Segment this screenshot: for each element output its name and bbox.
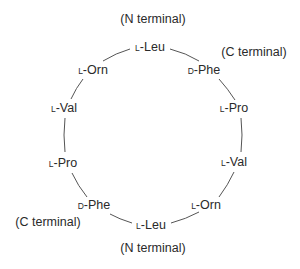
bond-phe-pro-right <box>219 79 235 100</box>
bond-leu-phe-top <box>170 49 199 61</box>
residue-l-orn-left: L-Orn <box>78 63 108 78</box>
n-terminal-label-top: (N terminal) <box>120 12 185 26</box>
residue-l-val-right: L-Val <box>221 155 247 170</box>
residue-l-pro-right: L-Pro <box>220 101 248 116</box>
residue-name: -Phe <box>194 63 220 77</box>
bond-val-orn-right <box>219 172 234 197</box>
residue-l-pro-left: L-Pro <box>49 156 77 171</box>
residue-name: -Orn <box>196 198 221 212</box>
residue-name: -Pro <box>54 156 78 170</box>
c-terminal-label-bottom: (C terminal) <box>15 215 80 229</box>
bond-orn-leu-bottom <box>171 212 199 223</box>
residue-name: -Orn <box>83 63 108 77</box>
residue-l-leu-top: L-Leu <box>135 40 165 55</box>
c-terminal-label-top: (C terminal) <box>221 45 286 59</box>
residue-name: -Pro <box>225 101 249 115</box>
bond-leu-phe-bottom <box>110 214 132 223</box>
bond-phe-pro-left <box>72 173 87 197</box>
residue-d-phe-top: D-Phe <box>188 63 221 78</box>
bond-pro-val-right <box>241 118 242 152</box>
residue-name: -Phe <box>84 198 110 212</box>
residue-l-val-left: L-Val <box>51 101 77 116</box>
residue-name: -Leu <box>141 218 166 232</box>
bond-val-orn-left <box>71 79 83 99</box>
residue-name: -Leu <box>140 40 165 54</box>
bond-pro-val-left <box>64 118 65 152</box>
residue-d-phe-bottom: D-Phe <box>78 198 111 213</box>
residue-l-orn-right: L-Orn <box>191 198 221 213</box>
n-terminal-label-bottom: (N terminal) <box>120 241 185 255</box>
residue-name: -Val <box>56 101 77 115</box>
residue-l-leu-bottom: L-Leu <box>136 218 166 233</box>
bond-orn-leu-top <box>103 49 130 61</box>
residue-name: -Val <box>226 155 247 169</box>
